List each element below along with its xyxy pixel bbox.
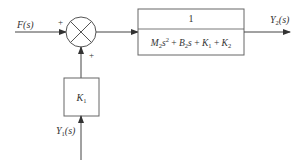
transfer-numerator: 1 [138,13,244,24]
input-y1-label: Y1(s) [56,126,75,138]
block-diagram-canvas [0,0,306,163]
plus-sign-k1: + [89,51,94,60]
output-y2-label: Y2(s) [270,15,289,27]
summing-junction [66,17,96,47]
input-f-label: F(s) [17,20,34,30]
plus-sign-f: + [58,18,63,27]
transfer-denominator: M2s2 + B2s + K1 + K2 [138,36,244,49]
gain-k1-label: K1 [64,92,99,104]
